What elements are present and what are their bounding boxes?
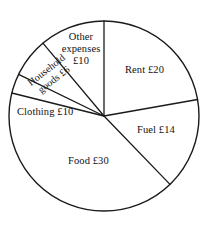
pie-slice-label-other-expenses-line-1: Other bbox=[52, 31, 110, 43]
pie-slice-label-fuel: Fuel £14 bbox=[137, 124, 175, 136]
pie-slice-label-other-expenses-line-3: £10 bbox=[52, 55, 110, 67]
pie-slice-label-other-expenses: Other expenses £10 bbox=[52, 31, 110, 67]
pie-chart: Rent £20 Fuel £14 Food £30 Clothing £10 … bbox=[0, 0, 211, 225]
pie-slice-label-clothing: Clothing £10 bbox=[17, 106, 73, 118]
pie-slice-label-rent: Rent £20 bbox=[125, 64, 164, 76]
pie-slice-label-other-expenses-line-2: expenses bbox=[52, 43, 110, 55]
pie-slice-label-food: Food £30 bbox=[68, 155, 109, 167]
